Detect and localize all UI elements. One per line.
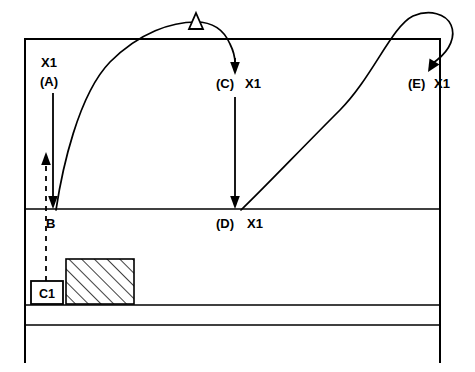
label-c-ref: (C): [216, 76, 234, 91]
curve-d-to-e: [241, 13, 453, 210]
label-a-ref: (A): [40, 74, 58, 89]
label-e-signal: X1: [434, 76, 450, 91]
curve-b-to-c: [56, 22, 235, 210]
label-c-signal: X1: [245, 76, 261, 91]
arrow-e-diagonal: [428, 59, 440, 73]
label-d-signal: X1: [247, 216, 263, 231]
label-b-ref: B: [46, 216, 55, 231]
hatched-rectangle: [66, 259, 134, 304]
label-a-signal: X1: [41, 55, 57, 70]
c1-box-label: C1: [39, 287, 55, 301]
diagram-root: C1 X1 (A) B (C) X1 (D) X1 (E) X1: [0, 0, 475, 372]
arrow-c-down: [230, 58, 240, 75]
c1-box: C1: [31, 281, 63, 304]
arrow-d-down: [230, 97, 240, 209]
label-e-ref: (E): [408, 76, 425, 91]
diagram-canvas: C1 X1 (A) B (C) X1 (D) X1 (E) X1: [0, 0, 475, 372]
apex-triangle-icon: [189, 13, 203, 29]
label-d-ref: (D): [216, 216, 234, 231]
arrow-a-down: [48, 93, 58, 209]
